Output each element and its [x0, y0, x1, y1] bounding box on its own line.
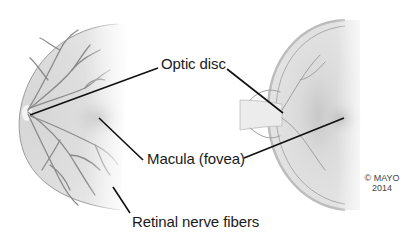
eye-cross-section — [240, 15, 370, 215]
optic-disc-label: Optic disc — [161, 55, 226, 72]
fundus-view — [19, 20, 130, 215]
copyright-notice: © MAYO 2014 — [362, 173, 402, 193]
retina-illustration — [0, 0, 417, 243]
copyright-line2: 2014 — [362, 183, 402, 193]
macula-label: Macula (fovea) — [147, 150, 245, 167]
nerve-fibers-label: Retinal nerve fibers — [132, 213, 259, 230]
copyright-line1: © MAYO — [362, 173, 402, 183]
